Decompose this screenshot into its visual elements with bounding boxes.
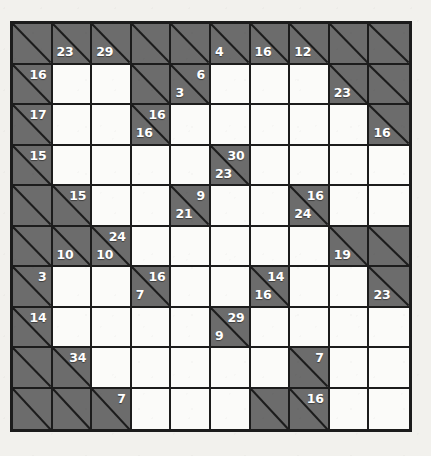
across-clue: 16 <box>307 190 324 203</box>
entry-cell[interactable] <box>92 65 132 106</box>
entry-cell-value <box>290 105 328 144</box>
block-cell <box>13 24 53 65</box>
entry-cell[interactable] <box>53 65 93 106</box>
entry-cell[interactable] <box>290 267 330 308</box>
entry-cell-value <box>330 389 368 430</box>
entry-cell[interactable] <box>369 348 409 389</box>
entry-cell[interactable] <box>92 146 132 187</box>
entry-cell-value <box>132 146 170 185</box>
entry-cell[interactable] <box>211 389 251 430</box>
kakuro-grid[interactable]: 2329416121663231716161615302315921162410… <box>13 24 409 429</box>
clue-cell: 23 <box>369 267 409 308</box>
entry-cell[interactable] <box>171 348 211 389</box>
entry-cell[interactable] <box>53 146 93 187</box>
entry-cell[interactable] <box>369 389 409 430</box>
down-clue: 4 <box>215 46 224 59</box>
clue-cell: 15 <box>53 186 93 227</box>
entry-cell-value <box>92 186 130 225</box>
entry-cell-value <box>330 308 368 347</box>
down-clue: 10 <box>96 249 113 262</box>
entry-cell[interactable] <box>251 308 291 349</box>
entry-cell[interactable] <box>171 267 211 308</box>
clue-cell: 16 <box>369 105 409 146</box>
entry-cell[interactable] <box>211 186 251 227</box>
entry-cell[interactable] <box>211 267 251 308</box>
across-clue: 3 <box>38 271 47 284</box>
entry-cell[interactable] <box>251 227 291 268</box>
entry-cell[interactable] <box>132 227 172 268</box>
down-clue: 21 <box>175 208 192 221</box>
entry-cell-value <box>251 308 289 347</box>
clue-cell: 12 <box>290 24 330 65</box>
entry-cell[interactable] <box>290 105 330 146</box>
entry-cell[interactable] <box>132 348 172 389</box>
entry-cell[interactable] <box>330 267 370 308</box>
entry-cell[interactable] <box>330 348 370 389</box>
entry-cell[interactable] <box>171 105 211 146</box>
entry-cell-value <box>171 227 209 266</box>
entry-cell-value <box>211 389 249 430</box>
entry-cell-value <box>211 267 249 306</box>
entry-cell[interactable] <box>211 65 251 106</box>
entry-cell[interactable] <box>92 348 132 389</box>
entry-cell-value <box>53 267 91 306</box>
entry-cell[interactable] <box>211 227 251 268</box>
entry-cell[interactable] <box>53 308 93 349</box>
entry-cell[interactable] <box>290 308 330 349</box>
entry-cell-value <box>171 348 209 387</box>
entry-cell[interactable] <box>171 227 211 268</box>
entry-cell[interactable] <box>132 146 172 187</box>
block-cell <box>13 227 53 268</box>
entry-cell[interactable] <box>369 186 409 227</box>
entry-cell[interactable] <box>92 186 132 227</box>
entry-cell-value <box>92 308 130 347</box>
entry-cell-value <box>211 348 249 387</box>
entry-cell[interactable] <box>92 105 132 146</box>
entry-cell-value <box>330 348 368 387</box>
across-clue: 9 <box>196 190 205 203</box>
entry-cell-value <box>171 308 209 347</box>
entry-cell[interactable] <box>132 389 172 430</box>
entry-cell-value <box>330 267 368 306</box>
entry-cell[interactable] <box>171 146 211 187</box>
clue-cell: 23 <box>330 65 370 106</box>
entry-cell[interactable] <box>369 308 409 349</box>
entry-cell[interactable] <box>251 186 291 227</box>
entry-cell[interactable] <box>251 105 291 146</box>
entry-cell[interactable] <box>53 267 93 308</box>
entry-cell-value <box>211 227 249 266</box>
entry-cell[interactable] <box>290 146 330 187</box>
entry-cell-value <box>251 186 289 225</box>
entry-cell[interactable] <box>132 186 172 227</box>
entry-cell[interactable] <box>330 308 370 349</box>
entry-cell[interactable] <box>330 105 370 146</box>
entry-cell[interactable] <box>251 146 291 187</box>
entry-cell-value <box>132 186 170 225</box>
clue-cell: 63 <box>171 65 211 106</box>
across-clue: 7 <box>315 352 324 365</box>
entry-cell[interactable] <box>251 348 291 389</box>
entry-cell[interactable] <box>92 308 132 349</box>
entry-cell[interactable] <box>211 348 251 389</box>
entry-cell-value <box>132 227 170 266</box>
clue-cell: 7 <box>92 389 132 430</box>
entry-cell[interactable] <box>330 389 370 430</box>
down-clue: 16 <box>255 46 272 59</box>
entry-cell[interactable] <box>171 389 211 430</box>
entry-cell[interactable] <box>369 146 409 187</box>
entry-cell[interactable] <box>92 267 132 308</box>
across-clue: 24 <box>109 231 126 244</box>
entry-cell[interactable] <box>53 105 93 146</box>
entry-cell[interactable] <box>132 308 172 349</box>
entry-cell-value <box>330 146 368 185</box>
entry-cell[interactable] <box>330 146 370 187</box>
kakuro-grid-border: 2329416121663231716161615302315921162410… <box>10 21 412 432</box>
entry-cell[interactable] <box>251 65 291 106</box>
entry-cell[interactable] <box>171 308 211 349</box>
entry-cell[interactable] <box>290 227 330 268</box>
diagonal-divider-icon <box>330 24 368 63</box>
entry-cell-value <box>251 105 289 144</box>
entry-cell[interactable] <box>290 65 330 106</box>
entry-cell[interactable] <box>330 186 370 227</box>
entry-cell[interactable] <box>211 105 251 146</box>
